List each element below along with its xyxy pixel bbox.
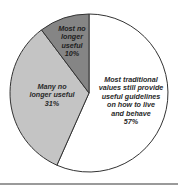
label-most-no-longer-useful: Most no longer useful 10% xyxy=(54,25,90,59)
label-still-useful: Most traditional values still provide us… xyxy=(95,76,167,126)
bottom-rule xyxy=(0,183,178,185)
label-many-no-longer-useful: Many no longer useful 31% xyxy=(22,83,82,108)
